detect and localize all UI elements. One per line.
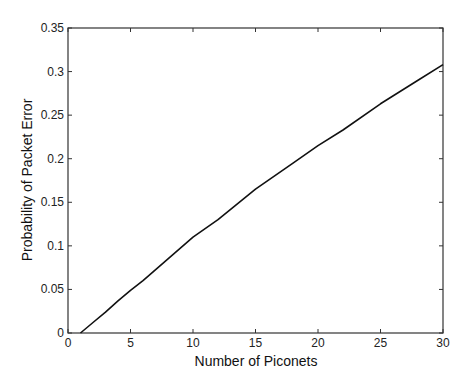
y-tick-label: 0.1 — [47, 239, 64, 253]
x-axis-label: Number of Piconets — [195, 353, 318, 369]
y-axis-label: Probability of Packet Error — [19, 98, 35, 261]
y-tick-label: 0.2 — [47, 152, 64, 166]
x-tick-label: 10 — [186, 336, 200, 350]
line-chart: 05101520253000.050.10.150.20.250.30.35 N… — [0, 0, 471, 382]
y-tick-label: 0 — [57, 326, 64, 340]
y-tick-label: 0.05 — [41, 282, 65, 296]
x-tick-label: 15 — [249, 336, 263, 350]
y-tick-label: 0.25 — [41, 108, 65, 122]
y-tick-label: 0.3 — [47, 65, 64, 79]
x-tick-label: 0 — [65, 336, 72, 350]
y-tick-label: 0.15 — [41, 195, 65, 209]
data-line — [81, 65, 444, 333]
y-tick-label: 0.35 — [41, 21, 65, 35]
x-tick-label: 20 — [311, 336, 325, 350]
x-tick-label: 25 — [374, 336, 388, 350]
plot-area: 05101520253000.050.10.150.20.250.30.35 — [41, 21, 450, 350]
x-tick-label: 30 — [436, 336, 450, 350]
x-tick-label: 5 — [127, 336, 134, 350]
axes-frame — [68, 28, 443, 333]
